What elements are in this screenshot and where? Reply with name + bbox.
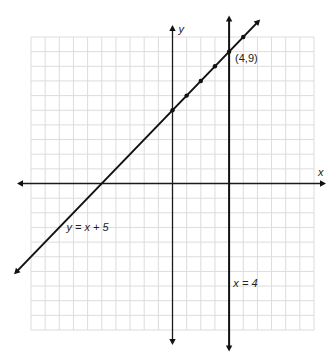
coordinate-plane: x y y = x + 5 x = 4 (4,9): [0, 0, 336, 359]
x-axis-label: x: [317, 166, 324, 178]
data-point: [241, 35, 245, 39]
x-axis-arrow-left: [17, 180, 23, 186]
y-axis-arrow-down: [169, 339, 175, 345]
series-line-0: [17, 22, 258, 271]
y-axis-arrow-up: [169, 25, 175, 31]
line-label-x-equals-4: x = 4: [232, 277, 257, 289]
vertical-arrow-down-1: [226, 346, 232, 352]
data-point: [213, 64, 217, 68]
y-axis-label: y: [178, 23, 186, 35]
x-axis-arrow-right: [320, 180, 326, 186]
axes: [17, 25, 326, 345]
line-label-y-equals-x-plus-5: y = x + 5: [65, 221, 109, 233]
vertical-arrow-up-1: [226, 15, 232, 21]
data-point: [170, 108, 174, 112]
data-point: [199, 79, 203, 83]
point-annotation-4-9: (4,9): [235, 52, 258, 64]
data-point: [184, 93, 188, 97]
